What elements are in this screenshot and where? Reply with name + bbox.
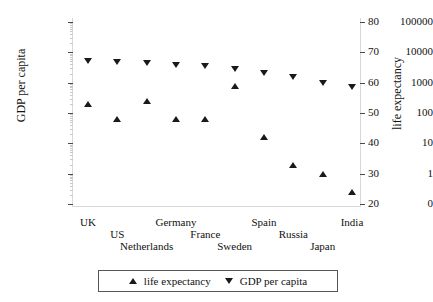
gdp-marker xyxy=(201,63,209,69)
right-tick-mark xyxy=(360,52,365,53)
right-tick-label: 60 xyxy=(368,77,379,88)
gdp-marker xyxy=(84,58,92,64)
gdp-marker xyxy=(143,60,151,66)
left-minor-tick xyxy=(70,150,73,151)
life-expectancy-marker xyxy=(289,162,297,168)
left-minor-tick xyxy=(70,104,73,105)
x-label-france: France xyxy=(190,228,220,240)
right-tick-label: 70 xyxy=(368,46,379,57)
left-minor-tick xyxy=(70,155,73,156)
left-minor-tick xyxy=(70,25,73,26)
gdp-marker xyxy=(113,59,121,65)
right-tick-label: 20 xyxy=(368,198,379,209)
right-tick-label: 30 xyxy=(368,168,379,179)
left-minor-tick xyxy=(70,165,73,166)
left-minor-tick xyxy=(70,54,73,55)
left-minor-tick xyxy=(70,38,73,39)
left-minor-tick xyxy=(70,125,73,126)
x-label-uk: UK xyxy=(80,216,96,228)
left-tick-mark xyxy=(68,204,73,205)
left-minor-tick xyxy=(70,148,73,149)
left-minor-tick xyxy=(70,61,73,62)
left-minor-tick xyxy=(70,175,73,176)
x-label-spain: Spain xyxy=(251,216,276,228)
left-minor-tick xyxy=(70,145,73,146)
left-minor-tick xyxy=(70,178,73,179)
left-minor-tick xyxy=(70,99,73,100)
left-minor-tick xyxy=(70,89,73,90)
left-minor-tick xyxy=(70,129,73,130)
right-tick-mark xyxy=(360,143,365,144)
life-expectancy-marker xyxy=(260,134,268,140)
right-tick-mark xyxy=(360,113,365,114)
life-expectancy-marker xyxy=(348,189,356,195)
life-expectancy-marker xyxy=(84,101,92,107)
x-label-india: India xyxy=(341,216,364,228)
left-minor-tick xyxy=(70,74,73,75)
life-expectancy-marker xyxy=(172,116,180,122)
left-minor-tick xyxy=(70,55,73,56)
left-minor-tick xyxy=(70,195,73,196)
left-minor-tick xyxy=(70,190,73,191)
left-minor-tick xyxy=(70,59,73,60)
right-tick-mark xyxy=(360,204,365,205)
left-minor-tick xyxy=(70,68,73,69)
left-minor-tick xyxy=(70,116,73,117)
left-minor-tick xyxy=(70,95,73,96)
x-label-germany: Germany xyxy=(156,216,197,228)
left-minor-tick xyxy=(70,114,73,115)
life-expectancy-marker xyxy=(143,98,151,104)
life-expectancy-marker xyxy=(231,83,239,89)
left-minor-tick xyxy=(70,84,73,85)
gdp-marker xyxy=(260,70,268,76)
left-minor-tick xyxy=(70,87,73,88)
left-minor-tick xyxy=(70,27,73,28)
left-minor-tick xyxy=(70,64,73,65)
bottom-axis-line xyxy=(72,206,361,207)
gdp-marker xyxy=(319,80,327,86)
left-minor-tick xyxy=(70,177,73,178)
gdp-marker xyxy=(348,84,356,90)
left-minor-tick xyxy=(70,92,73,93)
chart-container: GDP per capita life expectancy 100000100… xyxy=(0,0,433,302)
left-minor-tick xyxy=(70,180,73,181)
down-triangle-icon xyxy=(225,278,233,284)
left-minor-tick xyxy=(70,86,73,87)
left-minor-tick xyxy=(70,122,73,123)
left-minor-tick xyxy=(70,186,73,187)
life-expectancy-marker xyxy=(201,116,209,122)
left-minor-tick xyxy=(70,57,73,58)
life-expectancy-marker xyxy=(113,116,121,122)
legend-label-life-expectancy: life expectancy xyxy=(144,275,211,287)
left-minor-tick xyxy=(70,134,73,135)
right-tick-mark xyxy=(360,174,365,175)
legend-entry-gdp-per-capita: GDP per capita xyxy=(225,275,307,287)
right-tick-mark xyxy=(360,22,365,23)
left-minor-tick xyxy=(70,183,73,184)
x-label-japan: Japan xyxy=(310,240,335,252)
chart-legend: life expectancy GDP per capita xyxy=(98,270,338,292)
left-minor-tick xyxy=(70,34,73,35)
x-label-us: US xyxy=(110,228,124,240)
gdp-marker xyxy=(289,74,297,80)
legend-entry-life-expectancy: life expectancy xyxy=(129,275,211,287)
x-label-sweden: Sweden xyxy=(217,240,252,252)
right-tick-label: 40 xyxy=(368,137,379,148)
left-minor-tick xyxy=(70,23,73,24)
left-axis-title: GDP per capita xyxy=(14,21,29,151)
right-axis-line xyxy=(360,18,361,206)
left-minor-tick xyxy=(70,31,73,32)
left-minor-tick xyxy=(70,118,73,119)
legend-label-gdp-per-capita: GDP per capita xyxy=(240,275,307,287)
right-tick-label: 50 xyxy=(368,107,379,118)
x-label-russia: Russia xyxy=(279,228,308,240)
x-label-netherlands: Netherlands xyxy=(120,240,173,252)
left-minor-tick xyxy=(70,152,73,153)
life-expectancy-marker xyxy=(319,171,327,177)
left-minor-tick xyxy=(70,43,73,44)
gdp-marker xyxy=(172,62,180,68)
left-minor-tick xyxy=(70,146,73,147)
right-tick-mark xyxy=(360,83,365,84)
gdp-marker xyxy=(231,66,239,72)
right-tick-label: 80 xyxy=(368,16,379,27)
